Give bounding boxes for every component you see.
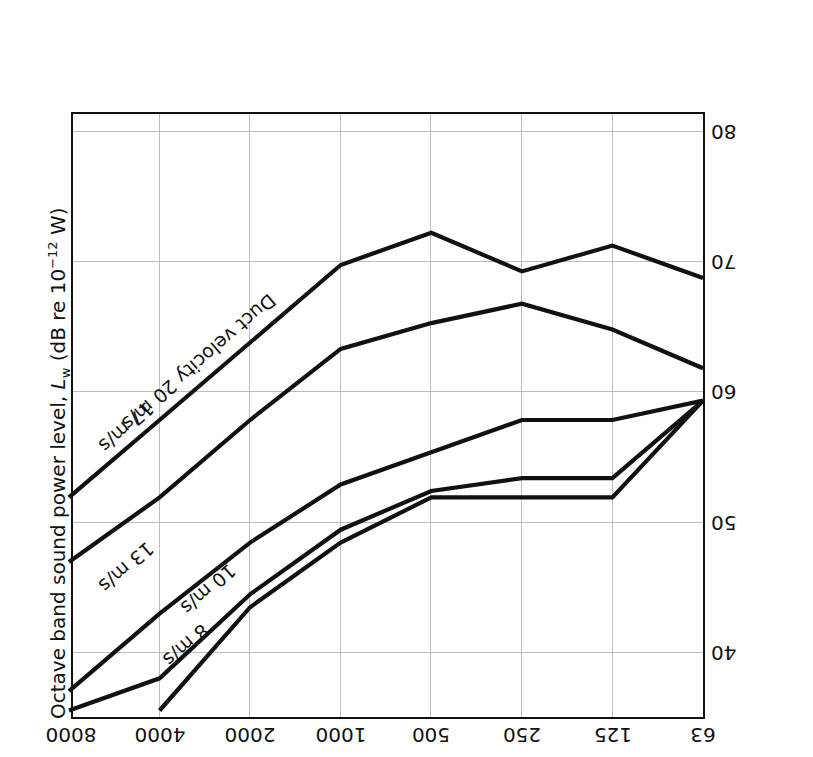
x-tick-63: 63 [690, 723, 715, 747]
curve-17ms [69, 304, 703, 562]
plot-area: 63 125 250 500 1000 2000 4000 8000 40 50… [71, 112, 705, 719]
y-tick-50: 50 [711, 511, 747, 535]
curve-8ms [160, 401, 703, 711]
y-axis-title-text-d: (dB re 10 [46, 269, 70, 368]
x-tick-1000: 1000 [316, 723, 367, 747]
x-tick-4000: 4000 [135, 723, 186, 747]
x-tick-2000: 2000 [225, 723, 276, 747]
y-axis-exponent: −12 [45, 241, 60, 268]
x-tick-125: 125 [594, 723, 632, 747]
x-tick-250: 250 [503, 723, 541, 747]
curve-20ms [69, 233, 703, 498]
y-axis-title-text-a: Octave band sound power level, [46, 389, 70, 719]
y-tick-80: 80 [711, 120, 747, 144]
rotated-figure-wrapper: k = 0.7 Frequency (Hz) Octave band sound… [0, 0, 813, 757]
curves-layer [69, 110, 703, 717]
y-axis-symbol-L: L [46, 378, 70, 389]
y-tick-70: 70 [711, 250, 747, 274]
y-tick-40: 40 [711, 641, 747, 665]
curve-13ms [69, 401, 703, 692]
y-tick-60: 60 [711, 380, 747, 404]
curve-10ms [69, 401, 703, 711]
x-tick-500: 500 [412, 723, 450, 747]
y-axis-title-text-f: W) [46, 207, 70, 241]
x-tick-8000: 8000 [46, 723, 97, 747]
figure-canvas: k = 0.7 Frequency (Hz) Octave band sound… [0, 0, 813, 757]
